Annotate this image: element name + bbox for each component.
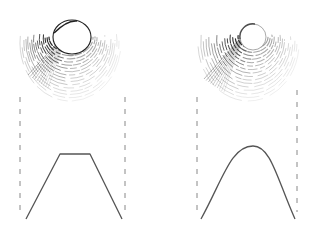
- flat-top-cone-surface: [20, 20, 120, 101]
- trapezoid-profile-curve: [26, 154, 122, 219]
- bell-profile-curve: [201, 146, 295, 219]
- rounded-top-cone-surface: [198, 24, 299, 101]
- figure-canvas: [0, 0, 315, 236]
